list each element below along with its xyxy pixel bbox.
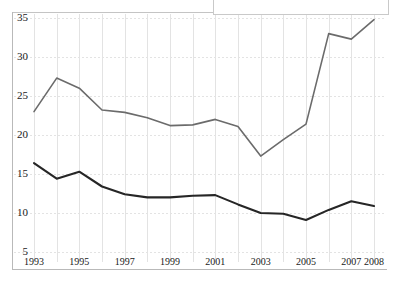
series-lines xyxy=(34,20,374,220)
x-tick-label: 2008 xyxy=(358,256,390,267)
y-tick-label: 15 xyxy=(6,167,28,179)
overlay-white-box xyxy=(213,0,389,15)
plot-area xyxy=(0,0,399,287)
x-tick-label: 1993 xyxy=(18,256,50,267)
x-tick-label: 1997 xyxy=(109,256,141,267)
horizontal-gridlines xyxy=(14,19,386,253)
x-tick-label: 1995 xyxy=(63,256,95,267)
y-tick-label: 35 xyxy=(6,11,28,23)
line-chart: 5101520253035 19931995199719992001200320… xyxy=(0,0,399,287)
y-tick-label: 10 xyxy=(6,206,28,218)
y-tick-label: 25 xyxy=(6,89,28,101)
series-line-lower-series xyxy=(34,163,374,220)
y-tick-label: 30 xyxy=(6,50,28,62)
x-tick-label: 2001 xyxy=(199,256,231,267)
y-tick-label: 20 xyxy=(6,128,28,140)
x-tick-label: 2005 xyxy=(290,256,322,267)
x-tick-label: 2003 xyxy=(245,256,277,267)
x-tick-label: 1999 xyxy=(154,256,186,267)
